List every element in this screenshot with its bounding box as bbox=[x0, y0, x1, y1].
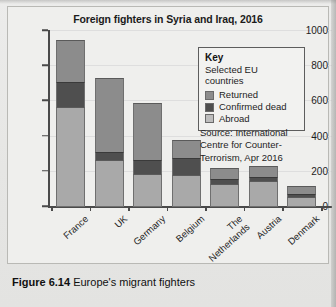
legend-entries: ReturnedConfirmed deadAbroad bbox=[205, 89, 298, 125]
category-label-belgium: Belgium bbox=[173, 213, 206, 244]
bar-segment-confirmed-dead bbox=[56, 82, 85, 107]
bar-segment-returned bbox=[56, 40, 85, 82]
category-label-line: France bbox=[61, 213, 90, 241]
bar-segment-abroad bbox=[249, 181, 278, 207]
legend-title: Key bbox=[205, 52, 298, 64]
source-note: Source: InternationalCentre for Counter-… bbox=[200, 127, 318, 164]
bar-uk bbox=[95, 31, 124, 207]
figure-page: Foreign fighters in Syria and Iraq, 2016… bbox=[0, 0, 336, 307]
category-label-germany: Germany bbox=[131, 213, 167, 247]
x-tick-mark bbox=[282, 206, 284, 211]
figure-caption: Figure 6.14 Europe's migrant fighters bbox=[12, 276, 195, 288]
x-tick-mark bbox=[205, 206, 207, 211]
category-label-france: France bbox=[61, 213, 90, 241]
legend-swatch-icon bbox=[205, 103, 214, 112]
bar-segment-confirmed-dead bbox=[95, 152, 124, 160]
category-label-line: Denmark bbox=[285, 213, 321, 247]
x-tick-mark bbox=[128, 206, 130, 211]
bar-segment-returned bbox=[172, 140, 201, 158]
bar-belgium bbox=[172, 31, 201, 207]
legend-swatch-icon bbox=[205, 91, 214, 100]
x-tick-mark bbox=[51, 206, 53, 211]
x-tick-mark bbox=[167, 206, 169, 211]
category-label-line: Austria bbox=[254, 213, 283, 241]
legend-entry: Returned bbox=[205, 89, 298, 101]
category-label-line: Belgium bbox=[173, 213, 206, 244]
bar-france bbox=[56, 31, 85, 207]
category-label-denmark: Denmark bbox=[285, 213, 321, 247]
source-note-line: Source: International bbox=[200, 127, 318, 139]
figure-caption-text: Europe's migrant fighters bbox=[73, 276, 195, 288]
bar-segment-abroad bbox=[172, 175, 201, 207]
bar-segment-abroad bbox=[210, 184, 239, 207]
bar-segment-abroad bbox=[133, 174, 162, 207]
bar-segment-abroad bbox=[56, 107, 85, 207]
figure-caption-label: Figure 6.14 bbox=[12, 276, 70, 288]
bar-segment-abroad bbox=[287, 197, 316, 207]
x-tick-mark bbox=[244, 206, 246, 211]
bar-segment-confirmed-dead bbox=[172, 158, 201, 176]
legend-entry: Confirmed dead bbox=[205, 101, 298, 113]
chart-title: Foreign fighters in Syria and Iraq, 2016 bbox=[8, 13, 328, 25]
legend-entry-label: Abroad bbox=[219, 113, 250, 125]
category-label-line: Germany bbox=[131, 213, 167, 247]
bar-segment-returned bbox=[210, 168, 239, 179]
legend-swatch-icon bbox=[205, 114, 214, 123]
scan-edge-top bbox=[0, 0, 336, 4]
legend-box: Key Selected EU countries ReturnedConfir… bbox=[198, 47, 305, 131]
legend-entry-label: Confirmed dead bbox=[219, 101, 287, 113]
bar-segment-returned bbox=[249, 166, 278, 177]
category-label-austria: Austria bbox=[254, 213, 283, 241]
category-label-the-netherlands: TheNetherlands bbox=[199, 213, 252, 264]
category-label-uk: UK bbox=[112, 213, 129, 230]
scan-edge-right bbox=[331, 0, 336, 307]
bar-segment-confirmed-dead bbox=[133, 160, 162, 173]
bar-segment-returned bbox=[133, 103, 162, 160]
bar-segment-returned bbox=[287, 186, 316, 194]
x-tick-mark bbox=[321, 206, 323, 211]
chart-panel: Foreign fighters in Syria and Iraq, 2016… bbox=[7, 6, 329, 264]
x-tick-mark bbox=[90, 206, 92, 211]
source-note-line: Centre for Counter- bbox=[200, 139, 318, 151]
category-label-line: UK bbox=[112, 213, 129, 230]
legend-entry: Abroad bbox=[205, 113, 298, 125]
bar-germany bbox=[133, 31, 162, 207]
legend-subtitle: Selected EU countries bbox=[205, 64, 298, 87]
bar-segment-abroad bbox=[95, 160, 124, 207]
source-note-line: Terrorism, Apr 2016 bbox=[200, 152, 318, 164]
legend-entry-label: Returned bbox=[219, 89, 258, 101]
bar-segment-returned bbox=[95, 78, 124, 153]
